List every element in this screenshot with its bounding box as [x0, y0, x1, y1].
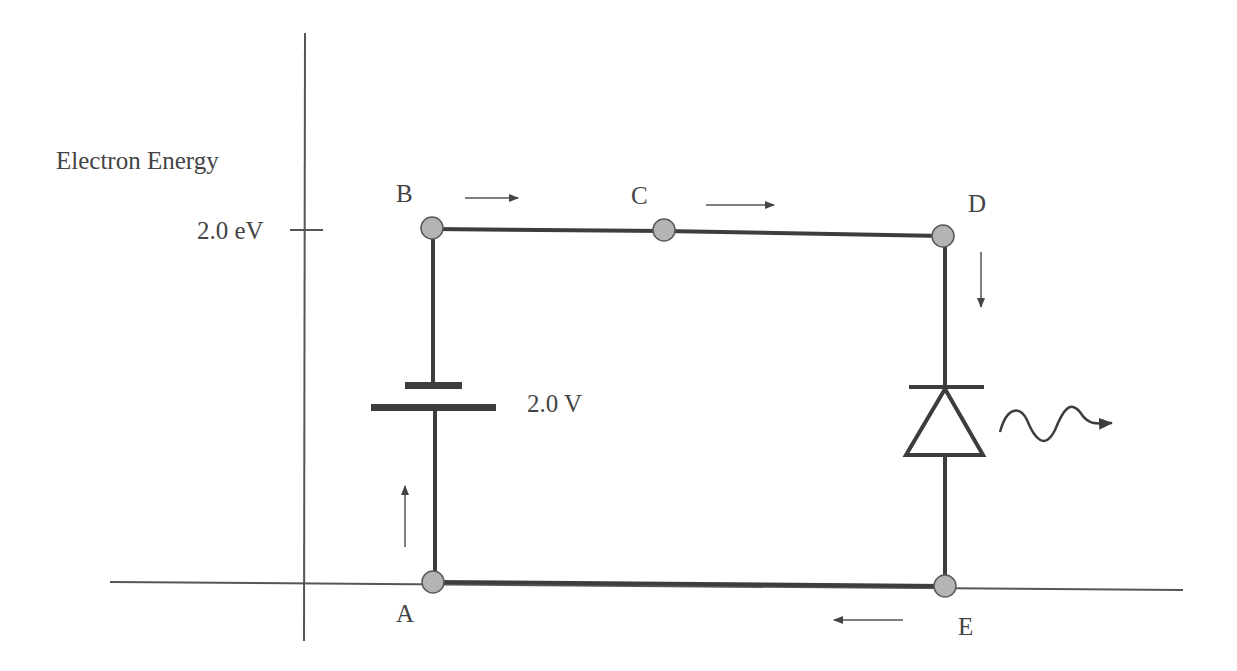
photon-wave-icon	[1000, 407, 1112, 441]
wire-b-c	[432, 229, 664, 231]
battery-voltage-label: 2.0 V	[527, 391, 582, 416]
tick-label-2ev: 2.0 eV	[197, 218, 264, 243]
vertical-energy-axis	[304, 33, 305, 641]
node-label-a: A	[396, 601, 414, 626]
battery-icon	[371, 382, 496, 411]
led-diode-icon	[906, 387, 984, 455]
circuit-energy-diagram	[0, 0, 1237, 671]
node-a	[422, 571, 444, 593]
wire-c-d	[664, 231, 943, 236]
node-label-d: D	[968, 191, 986, 216]
battery-negative-plate	[405, 382, 462, 389]
node-label-e: E	[958, 614, 973, 639]
node-e	[934, 575, 956, 597]
node-d	[932, 225, 954, 247]
node-label-b: B	[396, 181, 413, 206]
axis-title-electron-energy: Electron Energy	[56, 148, 219, 173]
battery-positive-plate	[371, 404, 496, 411]
node-c	[653, 219, 675, 241]
diode-triangle	[906, 389, 983, 455]
node-label-c: C	[631, 183, 648, 208]
circuit-wires	[432, 229, 945, 586]
node-b	[421, 217, 443, 239]
circuit-nodes	[421, 217, 956, 597]
axes	[110, 33, 1183, 641]
